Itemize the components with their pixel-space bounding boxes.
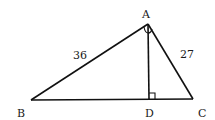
side-bc [31, 99, 193, 100]
vertex-label-a: A [141, 8, 151, 21]
triangle-diagram: A B D C 36 27 [0, 0, 215, 120]
side-label-ac: 27 [180, 48, 194, 61]
vertex-label-d: D [145, 107, 154, 120]
side-label-ab: 36 [73, 49, 87, 62]
altitude-ad [148, 24, 149, 99]
side-ab [31, 24, 148, 100]
right-angle-mark-d [149, 93, 155, 99]
vertex-label-c: C [198, 107, 206, 120]
vertex-label-b: B [17, 107, 25, 120]
side-ac [148, 24, 193, 99]
